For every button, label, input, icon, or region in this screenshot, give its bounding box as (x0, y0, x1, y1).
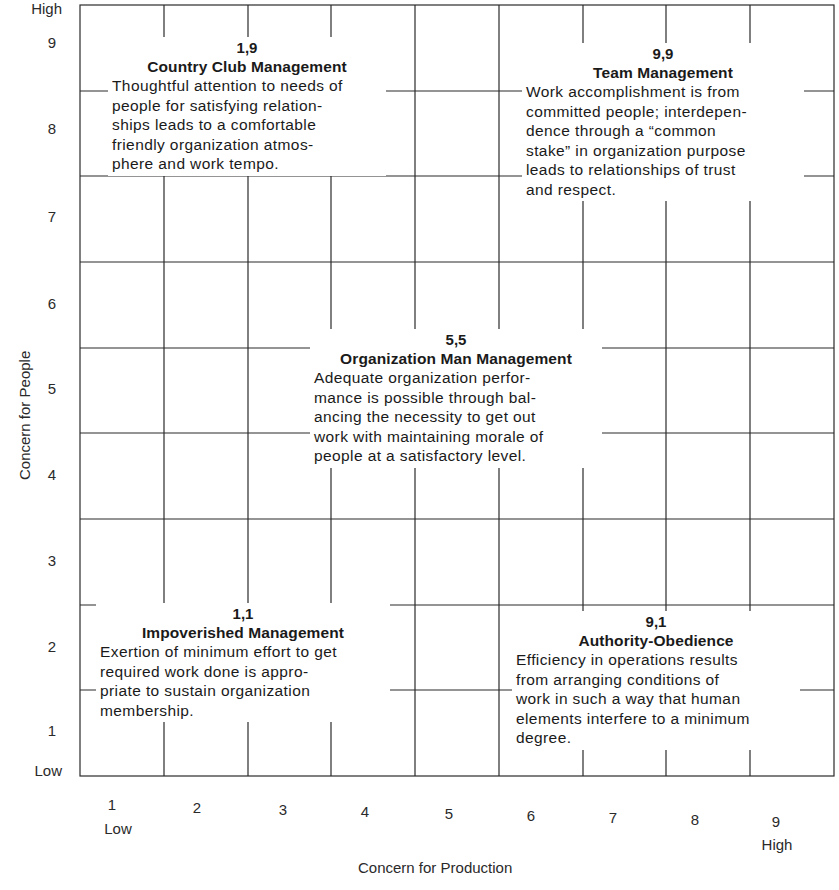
style-title: Organization Man Management (314, 349, 598, 368)
description-line: Efficiency in operations results (516, 650, 796, 670)
x-tick-8: 8 (680, 811, 710, 828)
description-line: Adequate organization perfor- (314, 368, 598, 388)
style-title: Impoverished Management (100, 623, 386, 642)
description-line: membership. (100, 701, 386, 721)
style-coordinate: 1,1 (100, 605, 386, 623)
style-coordinate: 1,9 (112, 39, 382, 57)
style-coordinate: 9,1 (516, 613, 796, 631)
y-tick-1: 1 (16, 722, 56, 739)
x-tick-7: 7 (598, 809, 628, 826)
x-tick-5: 5 (434, 805, 464, 822)
description-line: friendly organization atmos- (112, 135, 382, 155)
style-description: Exertion of minimum effort to get requir… (100, 642, 386, 720)
style-description: Efficiency in operations results from ar… (516, 650, 796, 748)
description-line: leads to relationships of trust (526, 160, 800, 180)
style-coordinate: 9,9 (526, 45, 800, 63)
x-tick-6: 6 (516, 807, 546, 824)
description-line: required work done is appro- (100, 662, 386, 682)
x-axis-title: Concern for Production (358, 859, 512, 876)
style-description: Thoughtful attention to needs of people … (112, 76, 382, 174)
y-tick-6: 6 (16, 295, 56, 312)
style-organization-man: 5,5 Organization Man Management Adequate… (310, 329, 602, 468)
description-line: dence through a “common (526, 121, 800, 141)
description-line: mance is possible through bal- (314, 388, 598, 408)
style-description: Work accomplishment is from committed pe… (526, 82, 800, 199)
managerial-grid-diagram: High 9 8 7 6 5 4 3 2 1 Low Concern for P… (0, 0, 839, 890)
x-tick-2: 2 (182, 799, 212, 816)
description-line: Thoughtful attention to needs of (112, 76, 382, 96)
style-authority-obedience: 9,1 Authority-Obedience Efficiency in op… (512, 611, 800, 750)
x-tick-1: 1 (97, 796, 127, 813)
description-line: work in such a way that human (516, 689, 796, 709)
description-line: phere and work tempo. (112, 154, 382, 174)
y-tick-3: 3 (16, 552, 56, 569)
y-tick-7: 7 (16, 208, 56, 225)
style-coordinate: 5,5 (314, 331, 598, 349)
description-line: degree. (516, 728, 796, 748)
y-tick-9: 9 (16, 34, 56, 51)
style-team: 9,9 Team Management Work accomplishment … (522, 43, 804, 201)
y-axis-high-label: High (8, 0, 62, 17)
description-line: Work accomplishment is from (526, 82, 800, 102)
x-axis-low-label: Low (98, 820, 138, 837)
description-line: committed people; interdepen- (526, 102, 800, 122)
description-line: elements interfere to a minimum (516, 709, 796, 729)
y-axis-title: Concern for People (16, 351, 33, 480)
style-title: Country Club Management (112, 57, 382, 76)
style-title: Team Management (526, 63, 800, 82)
y-tick-2: 2 (16, 638, 56, 655)
description-line: stake” in organization purpose (526, 141, 800, 161)
description-line: ancing the necessity to get out (314, 407, 598, 427)
description-line: priate to sustain organization (100, 681, 386, 701)
description-line: people at a satisfactory level. (314, 446, 598, 466)
style-country-club: 1,9 Country Club Management Thoughtful a… (108, 37, 386, 176)
x-tick-4: 4 (350, 803, 380, 820)
description-line: from arranging conditions of (516, 670, 796, 690)
description-line: and respect. (526, 180, 800, 200)
description-line: work with maintaining morale of (314, 427, 598, 447)
x-tick-3: 3 (268, 801, 298, 818)
description-line: people for satisfying relation- (112, 96, 382, 116)
y-axis-low-label: Low (8, 762, 62, 779)
y-tick-8: 8 (16, 120, 56, 137)
x-tick-9: 9 (761, 813, 791, 830)
style-description: Adequate organization perfor- mance is p… (314, 368, 598, 466)
style-impoverished: 1,1 Impoverished Management Exertion of … (96, 603, 390, 722)
x-axis-high-label: High (752, 836, 802, 853)
description-line: ships leads to a comfortable (112, 115, 382, 135)
style-title: Authority-Obedience (516, 631, 796, 650)
description-line: Exertion of minimum effort to get (100, 642, 386, 662)
